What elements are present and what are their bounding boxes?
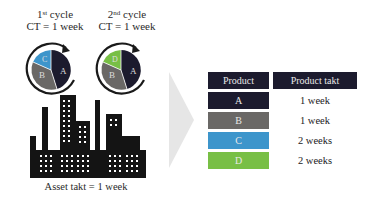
transition-arrow-icon — [169, 72, 195, 168]
slice-b-label: B — [109, 70, 115, 80]
slice-a-label: A — [130, 66, 137, 76]
cycle-1-label: 1st cycle CT = 1 week — [20, 8, 90, 32]
product-cell-d: D — [208, 152, 269, 169]
slice-b-label: B — [39, 70, 45, 80]
product-cell-b: B — [208, 112, 269, 129]
cycle-1-ct: CT = 1 week — [20, 20, 90, 32]
slice-d-label: D — [112, 55, 118, 64]
takt-cell-d: 2 weeks — [276, 152, 354, 169]
arrow-head-icon — [62, 44, 70, 53]
cycle-2-pie-chart: A B D — [92, 42, 152, 98]
cycle-1-pie-chart: A B C — [22, 42, 82, 98]
arrow-head-icon — [132, 44, 140, 53]
takt-cell-a: 1 week — [276, 92, 354, 109]
cycle-2-word: cycle — [120, 8, 146, 20]
cycle-2-ct: CT = 1 week — [92, 20, 162, 32]
cycle-1-ordinal-suffix: st — [42, 9, 47, 17]
takt-cell-b: 1 week — [276, 112, 354, 129]
cycle-2-ordinal-suffix: nd — [113, 9, 120, 17]
product-cell-a: A — [208, 92, 269, 109]
takt-cell-c: 2 weeks — [276, 132, 354, 149]
cycle-2-label: 2nd cycle CT = 1 week — [92, 8, 162, 32]
header-product-takt: Product takt — [273, 72, 357, 89]
asset-takt-caption: Asset takt = 1 week — [30, 181, 142, 192]
product-cell-c: C — [208, 132, 269, 149]
slice-c-label: C — [42, 55, 47, 64]
header-product: Product — [208, 72, 269, 89]
factory-buildings-icon — [28, 92, 146, 180]
cycle-1-word: cycle — [47, 8, 73, 20]
slice-a-label: A — [60, 66, 67, 76]
